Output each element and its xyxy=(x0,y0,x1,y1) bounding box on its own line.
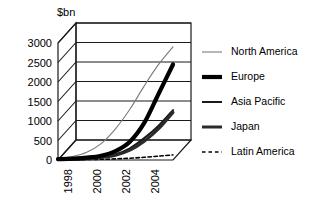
legend-label: Asia Pacific xyxy=(231,95,285,107)
chart-svg: $bn 050010001500200025003000 19982000200… xyxy=(0,0,329,206)
y-tick-label: 2000 xyxy=(28,76,52,88)
legend-label: Europe xyxy=(231,70,265,82)
gridlines xyxy=(58,23,191,141)
y-tick-label: 0 xyxy=(46,154,52,166)
x-tick-label: 2002 xyxy=(120,169,132,193)
chart-figure: $bn 050010001500200025003000 19982000200… xyxy=(0,0,329,206)
x-tick-label: 1998 xyxy=(62,169,74,193)
x-tick-label: 2000 xyxy=(91,169,103,193)
plot-3d-frame xyxy=(58,23,191,160)
x-tick-label: 2004 xyxy=(149,169,161,193)
series-lines xyxy=(58,47,173,160)
chart-legend: North AmericaEuropeAsia PacificJapanLati… xyxy=(202,45,298,157)
y-tick-label: 2500 xyxy=(28,57,52,69)
series-line xyxy=(58,64,173,159)
y-tick-label: 1000 xyxy=(28,115,52,127)
y-tick-label: 1500 xyxy=(28,96,52,108)
y-tick-label: 3000 xyxy=(28,37,52,49)
y-tick-label: 500 xyxy=(34,135,52,147)
legend-label: Latin America xyxy=(231,145,295,157)
legend-label: Japan xyxy=(231,120,260,132)
y-axis-tick-labels: 050010001500200025003000 xyxy=(28,37,52,166)
y-axis-title: $bn xyxy=(57,6,75,18)
x-axis-tick-labels: 1998200020022004 xyxy=(62,169,160,193)
legend-label: North America xyxy=(231,45,298,57)
